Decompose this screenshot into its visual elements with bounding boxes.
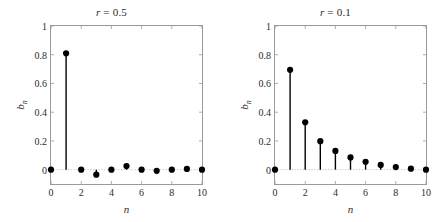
data-point-marker xyxy=(154,168,160,174)
x-tick-label: 4 xyxy=(333,187,338,198)
x-tick-label: 2 xyxy=(303,187,308,198)
x-tick-label: 8 xyxy=(169,187,174,198)
plot-area-left xyxy=(51,26,202,184)
stem-plot-svg xyxy=(51,26,202,184)
x-tick-label: 0 xyxy=(273,187,278,198)
data-point-marker xyxy=(93,172,99,178)
axes-right: bn n 00.20.40.60.810246810 xyxy=(274,25,427,185)
data-point-marker xyxy=(272,167,278,173)
data-point-marker xyxy=(63,50,69,56)
figure-canvas: r = 0.5 bn n 00.20.40.60.810246810 r = 0… xyxy=(0,0,447,222)
y-tick-label: 1 xyxy=(42,21,47,32)
panel-r-0-5: r = 0.5 bn n 00.20.40.60.810246810 xyxy=(0,0,223,222)
y-tick-label: 0.8 xyxy=(259,49,272,60)
data-point-marker xyxy=(199,167,205,173)
panel-r-0-1: r = 0.1 bn n 00.20.40.60.810246810 xyxy=(224,0,447,222)
y-tick-label: 0.4 xyxy=(259,107,272,118)
x-tick-label: 8 xyxy=(393,187,398,198)
y-tick-label: 0.2 xyxy=(35,135,48,146)
title-value: 0.1 xyxy=(337,6,351,18)
data-point-marker xyxy=(184,166,190,172)
y-tick-label: 0.4 xyxy=(35,107,48,118)
y-tick-label: 0.6 xyxy=(35,78,48,89)
panel-title-left: r = 0.5 xyxy=(0,6,223,18)
data-point-marker xyxy=(169,167,175,173)
data-point-marker xyxy=(423,167,429,173)
y-label-base: b xyxy=(14,104,26,110)
data-point-marker xyxy=(363,159,369,165)
y-label-base: b xyxy=(238,104,250,110)
data-point-marker xyxy=(139,167,145,173)
data-point-marker xyxy=(48,167,54,173)
y-label-subscript: n xyxy=(244,100,253,104)
data-point-marker xyxy=(302,119,308,125)
y-tick-label: 0.2 xyxy=(259,135,272,146)
x-tick-label: 6 xyxy=(363,187,368,198)
data-point-marker xyxy=(408,166,414,172)
title-value: 0.5 xyxy=(113,6,127,18)
x-tick-label: 2 xyxy=(79,187,84,198)
stem-plot-svg xyxy=(275,26,426,184)
data-point-marker xyxy=(393,164,399,170)
y-tick-label: 1 xyxy=(266,21,271,32)
title-equals: = xyxy=(324,6,336,18)
data-point-marker xyxy=(78,167,84,173)
y-tick-label: 0.8 xyxy=(35,49,48,60)
plot-area-right xyxy=(275,26,426,184)
data-point-marker xyxy=(287,67,293,73)
y-tick-label: 0.6 xyxy=(259,78,272,89)
x-tick-label: 4 xyxy=(109,187,114,198)
y-axis-label-right: bn xyxy=(238,100,253,110)
data-point-marker xyxy=(317,138,323,144)
y-tick-label: 0 xyxy=(266,164,271,175)
y-tick-label: 0 xyxy=(42,164,47,175)
x-tick-label: 10 xyxy=(421,187,431,198)
panel-title-right: r = 0.1 xyxy=(224,6,447,18)
data-point-marker xyxy=(378,162,384,168)
data-point-marker xyxy=(108,167,114,173)
y-axis-label-left: bn xyxy=(14,100,29,110)
x-axis-label-right: n xyxy=(275,203,426,215)
x-axis-label-left: n xyxy=(51,203,202,215)
x-tick-label: 0 xyxy=(49,187,54,198)
x-tick-label: 10 xyxy=(197,187,207,198)
data-point-marker xyxy=(332,148,338,154)
y-label-subscript: n xyxy=(20,100,29,104)
data-point-marker xyxy=(123,163,129,169)
title-equals: = xyxy=(100,6,112,18)
x-tick-label: 6 xyxy=(139,187,144,198)
data-point-marker xyxy=(347,154,353,160)
axes-left: bn n 00.20.40.60.810246810 xyxy=(50,25,203,185)
